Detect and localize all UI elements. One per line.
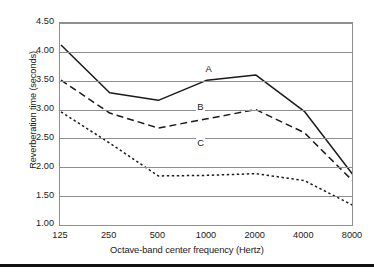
x-tick-label: 125 (40, 230, 80, 240)
series-label-a: A (204, 64, 213, 73)
y-tick-label: 3.50 (24, 75, 54, 84)
x-tick-label: 250 (89, 230, 129, 240)
gridline (60, 23, 352, 24)
bottom-divider-rule (0, 264, 374, 267)
gridline (60, 138, 352, 139)
y-tick-label: 2.50 (24, 133, 54, 142)
series-label-c: C (196, 138, 206, 147)
gridline (60, 81, 352, 82)
x-axis-title: Octave-band center frequency (Hertz) (0, 244, 374, 255)
y-tick-label: 3.00 (24, 104, 54, 113)
gridline (60, 167, 352, 168)
gridline (60, 52, 352, 53)
y-tick-label: 4.00 (24, 46, 54, 55)
series-line-c (61, 112, 352, 206)
gridline (60, 196, 352, 197)
reverberation-time-chart: Reverberation time (seconds) 4.504.003.5… (0, 0, 374, 279)
series-lines (60, 23, 352, 225)
x-axis-tick-labels: 1252505001000200040008000 (59, 230, 353, 244)
gridline (60, 110, 352, 111)
plot-area: ABC (59, 22, 353, 226)
y-tick-label: 1.00 (24, 219, 54, 228)
y-tick-label: 2.00 (24, 162, 54, 171)
x-tick-label: 500 (137, 230, 177, 240)
series-line-b (61, 80, 352, 181)
y-tick-label: 4.50 (24, 17, 54, 26)
y-tick-label: 1.50 (24, 191, 54, 200)
x-tick-label: 8000 (332, 230, 372, 240)
x-tick-label: 2000 (235, 230, 275, 240)
x-tick-label: 1000 (186, 230, 226, 240)
gridline (60, 225, 352, 226)
series-label-b: B (196, 102, 205, 111)
x-tick-label: 4000 (283, 230, 323, 240)
